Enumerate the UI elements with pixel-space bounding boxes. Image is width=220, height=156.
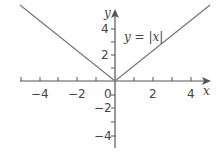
chart: −4 −2 0 2 4 4 2 −2 −4 x y y = |x| [0,0,220,156]
x-axis-label: x [203,84,210,98]
x-tick-label: 2 [149,87,157,101]
y-tick-label: −4 [94,129,112,143]
x-tick-label: −4 [31,87,49,101]
origin-label: 0 [104,87,112,101]
x-tick-label: 4 [187,87,195,101]
y-axis-label: y [103,6,111,20]
equation-label: y = |x| [123,30,163,44]
y-tick-label: 4 [101,22,109,36]
y-tick-label: 2 [101,48,109,62]
x-tick-label: −2 [68,87,86,101]
y-tick-label: −2 [94,101,112,115]
